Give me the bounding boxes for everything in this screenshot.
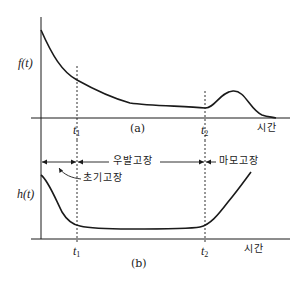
t2-subscript: 2 — [204, 250, 208, 259]
panel-b-hazard-curve — [41, 172, 251, 229]
panel-b-t1-label: t1 — [73, 245, 80, 259]
panel-a-axes — [31, 17, 290, 140]
region-early-failure-label: 초기고장 — [83, 173, 123, 183]
panel-a-y-label: f(t) — [18, 57, 33, 69]
panel-a-t2-label: t2 — [201, 124, 208, 138]
panel-a-caption: (a) — [130, 123, 145, 134]
panel-a-t1-label: t1 — [73, 124, 80, 138]
panel-a-x-label: 시간 — [257, 123, 277, 133]
panel-b-caption: (b) — [131, 258, 147, 269]
t1-subscript: 1 — [76, 129, 80, 138]
t1-subscript: 1 — [76, 250, 80, 259]
t2-subscript: 2 — [204, 129, 208, 138]
panel-b-y-label: h(t) — [17, 188, 34, 200]
panel-a-density-curve — [41, 30, 276, 118]
diagram-canvas — [0, 0, 306, 281]
region-random-failure-label: 우발고장 — [113, 156, 153, 166]
panel-b-t2-label: t2 — [201, 245, 208, 259]
region-wearout-failure-label: 마모고장 — [219, 156, 259, 166]
panel-b-x-label: 시간 — [244, 244, 264, 254]
